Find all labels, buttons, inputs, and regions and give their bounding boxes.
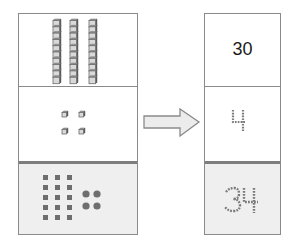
tens-value-label: 30 [205, 39, 280, 60]
pictorial-cell [19, 161, 137, 234]
dotted-digit-4-icon [205, 87, 279, 161]
ones-cubes-cell [19, 87, 137, 161]
base-ten-blocks-panel [18, 13, 138, 235]
tens-rods-icon [19, 14, 136, 87]
ones-cubes-icon [19, 87, 136, 161]
tens-value-cell: 30 [205, 14, 280, 87]
tens-rods-cell [19, 14, 137, 87]
numerals-panel: 30 4 34 [204, 13, 281, 235]
dotted-digits-34-icon [205, 164, 279, 236]
total-value-cell: 34 [205, 161, 280, 234]
ones-value-cell: 4 [205, 87, 280, 161]
squares-and-dots-icon [19, 164, 136, 236]
right-arrow-icon [140, 105, 204, 141]
